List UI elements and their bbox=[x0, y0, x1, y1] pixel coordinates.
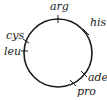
label-leu: leu bbox=[4, 46, 21, 57]
label-cys: cys bbox=[6, 30, 24, 41]
label-ade: ade bbox=[88, 72, 107, 83]
label-pro: pro bbox=[77, 86, 96, 97]
chromosome-circle bbox=[24, 19, 92, 87]
label-arg: arg bbox=[50, 1, 69, 12]
circular-gene-map: arg his cys leu ade pro bbox=[0, 0, 107, 100]
label-his: his bbox=[90, 17, 106, 28]
